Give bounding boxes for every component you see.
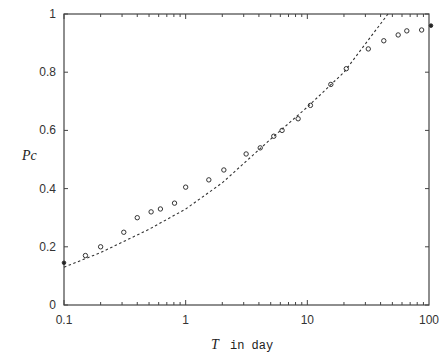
data-point bbox=[172, 201, 176, 205]
y-tick-labels: 00.20.40.60.81 bbox=[39, 7, 56, 312]
x-tick-label: 1 bbox=[182, 313, 189, 327]
data-point bbox=[272, 134, 276, 138]
data-point bbox=[158, 207, 162, 211]
data-point bbox=[344, 67, 348, 71]
data-point bbox=[405, 29, 409, 33]
y-tick-label: 0 bbox=[49, 298, 56, 312]
data-points bbox=[62, 24, 433, 265]
data-point bbox=[149, 210, 153, 214]
x-axis-label-variable: T bbox=[211, 337, 220, 352]
y-tick-label: 0.8 bbox=[39, 65, 56, 79]
y-tick-label: 0.2 bbox=[39, 240, 56, 254]
y-tick-label: 1 bbox=[49, 7, 56, 21]
y-tick-label: 0.4 bbox=[39, 182, 56, 196]
data-point bbox=[366, 47, 370, 51]
axis-ticks bbox=[64, 14, 429, 305]
x-tick-label: 0.1 bbox=[56, 313, 73, 327]
data-point bbox=[135, 216, 139, 220]
data-point bbox=[419, 28, 423, 32]
x-tick-label: 10 bbox=[301, 313, 315, 327]
chart: 00.20.40.60.81 0.1110100 Pc T in day bbox=[0, 0, 442, 357]
x-tick-labels: 0.1110100 bbox=[56, 313, 440, 327]
data-point bbox=[98, 245, 102, 249]
data-point bbox=[207, 178, 211, 182]
data-point bbox=[183, 185, 187, 189]
x-tick-label: 100 bbox=[419, 313, 439, 327]
fit-curve bbox=[64, 14, 388, 267]
x-axis-label-unit: in day bbox=[230, 339, 273, 353]
data-point bbox=[296, 117, 300, 121]
data-point bbox=[122, 230, 126, 234]
data-point bbox=[62, 261, 66, 265]
data-point bbox=[396, 33, 400, 37]
y-tick-label: 0.6 bbox=[39, 123, 56, 137]
data-point bbox=[382, 39, 386, 43]
data-point bbox=[222, 168, 226, 172]
data-point bbox=[429, 24, 433, 28]
data-point bbox=[83, 253, 87, 257]
plot-frame bbox=[64, 14, 429, 305]
y-axis-label: Pc bbox=[21, 148, 38, 163]
data-point bbox=[244, 152, 248, 156]
